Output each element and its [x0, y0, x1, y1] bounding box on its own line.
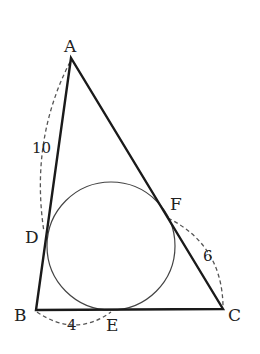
- label-E: E: [106, 315, 118, 335]
- label-A: A: [63, 36, 77, 56]
- measure-CF: 6: [203, 247, 213, 265]
- label-C: C: [228, 305, 241, 325]
- label-B: B: [14, 305, 27, 325]
- label-D: D: [25, 227, 39, 247]
- measure-BE: 4: [67, 316, 77, 334]
- label-F: F: [170, 194, 182, 214]
- geometry-diagram: A B C D E F 10 4 6: [0, 0, 260, 354]
- incircle: [47, 182, 175, 310]
- measure-AD: 10: [32, 139, 51, 157]
- triangle-ABC: [36, 58, 223, 310]
